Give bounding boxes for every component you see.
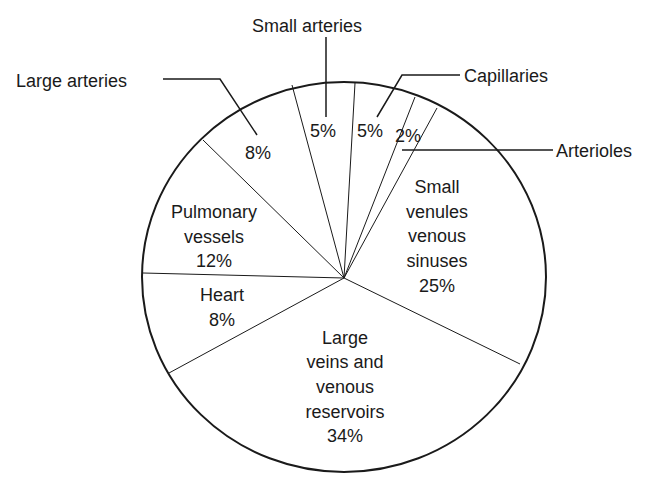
pct-large-arteries: 8% — [245, 143, 271, 163]
svg-text:veins and: veins and — [306, 352, 383, 372]
svg-text:sinuses: sinuses — [406, 251, 467, 271]
svg-text:reservoirs: reservoirs — [305, 402, 384, 422]
pct-small-arteries: 5% — [310, 121, 336, 141]
svg-text:8%: 8% — [209, 310, 235, 330]
divider-heart-pulmonary — [143, 273, 344, 278]
svg-text:venules: venules — [406, 202, 468, 222]
pct-arterioles: 2% — [395, 126, 421, 146]
pie-chart: Small arteries Large arteries Capillarie… — [0, 0, 670, 491]
label-capillaries: Capillaries — [464, 66, 548, 86]
label-small-venules: Small venules venous sinuses 25% — [406, 177, 468, 296]
svg-text:Pulmonary: Pulmonary — [171, 202, 257, 222]
svg-text:12%: 12% — [196, 251, 232, 271]
label-small-arteries: Small arteries — [252, 16, 362, 36]
label-large-veins: Large veins and venous reservoirs 34% — [305, 328, 384, 446]
svg-text:venous: venous — [316, 377, 374, 397]
divider-large-small-arteries — [292, 85, 344, 278]
svg-text:Small: Small — [414, 177, 459, 197]
divider-small-arteries-capillaries — [344, 83, 355, 278]
svg-text:Heart: Heart — [200, 285, 244, 305]
pct-capillaries: 5% — [357, 121, 383, 141]
label-heart: Heart 8% — [200, 285, 244, 330]
svg-text:34%: 34% — [327, 426, 363, 446]
svg-text:25%: 25% — [419, 276, 455, 296]
svg-text:Large: Large — [322, 328, 368, 348]
svg-text:venous: venous — [408, 226, 466, 246]
svg-text:vessels: vessels — [184, 227, 244, 247]
label-arterioles: Arterioles — [556, 141, 632, 161]
label-pulmonary-vessels: Pulmonary vessels 12% — [171, 202, 257, 271]
label-large-arteries: Large arteries — [16, 71, 127, 91]
